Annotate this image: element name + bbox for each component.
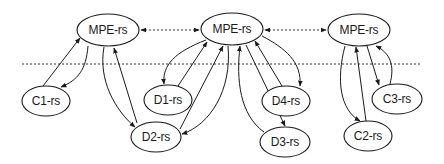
edge-c2-mpe3 [356,47,366,121]
label-mpe2: MPE-rs [213,22,252,36]
label-mpe3: MPE-rs [340,23,379,37]
label-c3: C3-rs [383,92,411,106]
edge-mpe3-c3 [367,46,379,85]
edge-mpe2-d1 [164,40,206,84]
edge-d2-mpe2 [180,46,223,129]
diagram-canvas: MPE-rs MPE-rs MPE-rs C1-rs D1-rs D2-rs D… [0,0,444,164]
edge-mpe2-d4 [262,36,300,86]
edge-d3-mpe2 [239,46,264,132]
edge-mpe1-d2 [103,47,135,127]
edge-mpe2-d2 [182,46,228,134]
label-c1: C1-rs [32,94,60,108]
label-mpe1: MPE-rs [89,23,128,37]
edges [43,36,392,134]
edge-d2-mpe1 [114,48,137,123]
edge-c3-mpe3 [376,46,392,84]
label-c2: C2-rs [354,129,382,143]
label-d1: D1-rs [154,93,182,107]
label-d3: D3-rs [271,135,299,149]
label-d4: D4-rs [272,94,300,108]
label-d2: D2-rs [142,130,170,144]
edge-mpe1-c1 [61,46,88,87]
